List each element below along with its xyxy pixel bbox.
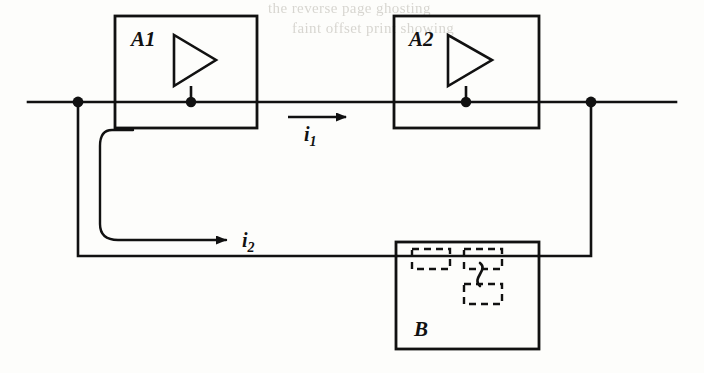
feedback-wire-path — [78, 102, 396, 256]
circuit-diagram: the reverse page ghosting faint offset p… — [0, 0, 704, 373]
current-i2: i2 — [100, 130, 255, 255]
feedback-return-wire — [539, 103, 591, 256]
block-b-label: B — [413, 317, 428, 341]
amplifier-triangle-a2 — [448, 35, 492, 86]
circuit-schematic-canvas: A1 A2 B i1 — [0, 0, 704, 373]
current-i1-label: i1 — [304, 123, 317, 149]
node-a1-output-dot — [186, 97, 196, 107]
node-left-dot — [73, 97, 84, 108]
current-i2-curved-tail — [100, 130, 226, 240]
current-i2-label: i2 — [242, 229, 255, 255]
dashed-element-left — [412, 249, 450, 269]
block-a2-label: A2 — [407, 27, 434, 51]
node-a2-output-dot — [461, 97, 471, 107]
block-a1-label: A1 — [129, 27, 156, 51]
node-right-dot — [586, 97, 597, 108]
block-b: B — [396, 242, 539, 349]
block-a2: A2 — [394, 16, 539, 128]
coupling-squiggle — [477, 263, 482, 286]
block-a1: A1 — [115, 16, 257, 128]
amplifier-triangle-a1 — [174, 35, 216, 86]
dashed-element-lower — [464, 284, 502, 304]
current-i1: i1 — [288, 117, 346, 149]
